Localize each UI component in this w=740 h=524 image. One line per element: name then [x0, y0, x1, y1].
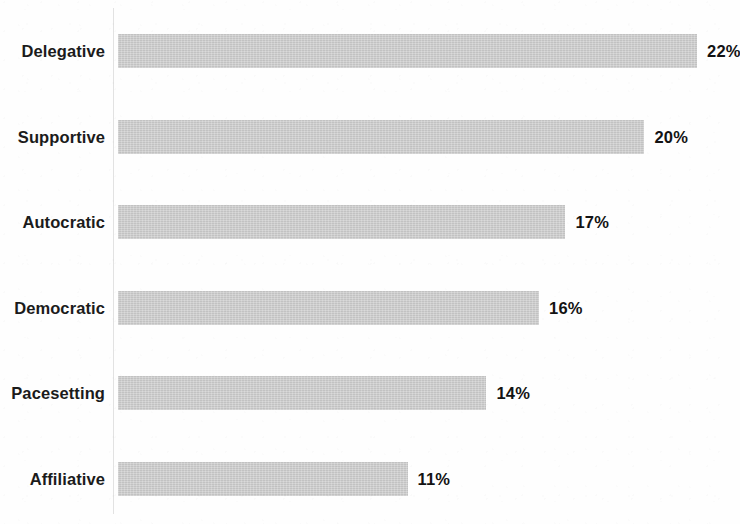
bar-value-label-pacesetting: 14% — [496, 385, 530, 402]
bar-category-label-supportive: Supportive — [0, 129, 105, 146]
bar-category-label-pacesetting: Pacesetting — [0, 385, 105, 402]
bar-category-label-delegative: Delegative — [0, 43, 105, 60]
category-axis-line — [113, 8, 114, 514]
bar-row: Affiliative11% — [0, 462, 740, 496]
bar-autocratic — [118, 205, 565, 239]
bar-category-label-democratic: Democratic — [0, 300, 105, 317]
bar-value-label-democratic: 16% — [549, 300, 583, 317]
bar-row: Pacesetting14% — [0, 376, 740, 410]
bar-row: Autocratic17% — [0, 205, 740, 239]
bar-supportive — [118, 120, 644, 154]
bar-pacesetting — [118, 376, 486, 410]
bar-value-label-supportive: 20% — [654, 129, 688, 146]
bar-chart: Delegative22%Supportive20%Autocratic17%D… — [0, 0, 740, 524]
bar-category-label-autocratic: Autocratic — [0, 214, 105, 231]
bar-category-label-affiliative: Affiliative — [0, 471, 105, 488]
bar-democratic — [118, 291, 539, 325]
plot-area: Delegative22%Supportive20%Autocratic17%D… — [0, 0, 740, 524]
bar-value-label-delegative: 22% — [707, 43, 740, 60]
bar-row: Supportive20% — [0, 120, 740, 154]
bar-value-label-autocratic: 17% — [575, 214, 609, 231]
bar-affiliative — [118, 462, 408, 496]
bar-delegative — [118, 34, 697, 68]
bar-row: Delegative22% — [0, 34, 740, 68]
bar-value-label-affiliative: 11% — [418, 471, 451, 488]
bar-row: Democratic16% — [0, 291, 740, 325]
